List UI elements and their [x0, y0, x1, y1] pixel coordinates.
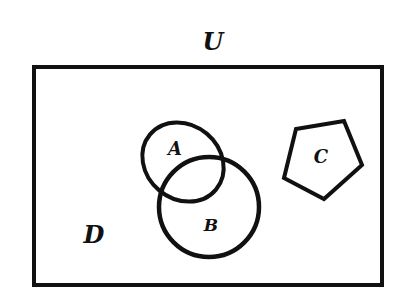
set-b-circle	[159, 157, 259, 257]
region-d-label: D	[83, 220, 105, 249]
set-c-label: C	[314, 146, 329, 167]
set-b-label: B	[203, 215, 218, 235]
universe-rectangle	[34, 67, 382, 285]
set-a-label: A	[166, 138, 182, 159]
universe-label: U	[203, 27, 226, 56]
venn-diagram: U A B C D	[0, 0, 402, 306]
